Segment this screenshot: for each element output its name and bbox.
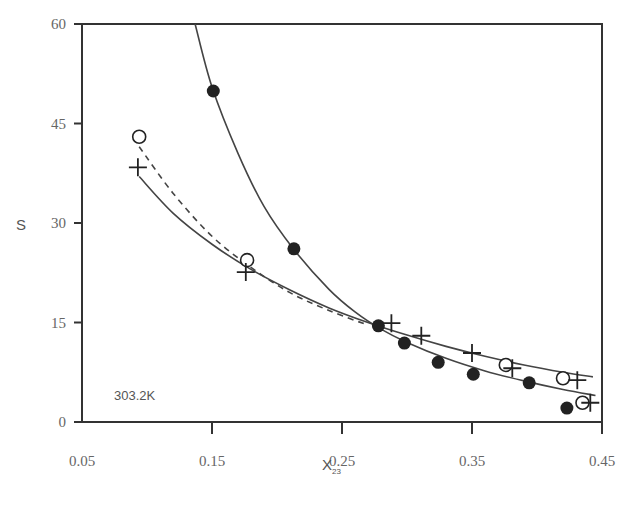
- filled-circle-marker: [523, 376, 536, 389]
- chart: 0153045600.050.150.250.350.45 303.2K S X…: [0, 0, 620, 512]
- x-tick-label: 0.05: [69, 453, 95, 469]
- plus-marker: [412, 327, 430, 345]
- plot-frame: [82, 24, 602, 422]
- open-fit-curve: [139, 147, 368, 325]
- filled-circle-marker: [398, 337, 411, 350]
- x-tick-label: 0.35: [459, 453, 485, 469]
- x-axis-label-subscript: 23: [332, 467, 341, 476]
- filled-circle-marker: [287, 242, 300, 255]
- plus-marker: [382, 314, 400, 332]
- plus-fit-curve: [139, 177, 593, 377]
- plus-marker: [129, 158, 147, 176]
- y-axis-label: S: [16, 216, 26, 233]
- x-tick-label: 0.15: [199, 453, 225, 469]
- y-tick-label: 60: [51, 16, 66, 32]
- open-circle-marker: [557, 372, 570, 385]
- filled-circle-marker: [560, 402, 573, 415]
- y-tick-label: 0: [59, 414, 67, 430]
- y-tick-label: 15: [51, 315, 66, 331]
- filled-circle-marker: [372, 319, 385, 332]
- fit-curves: [139, 24, 595, 395]
- x-axis-label-main: X: [322, 456, 332, 473]
- data-points: [129, 84, 599, 414]
- x-tick-label: 0.45: [589, 453, 615, 469]
- filled-circle-marker: [207, 84, 220, 97]
- plus-marker: [237, 263, 255, 281]
- plus-marker: [463, 344, 481, 362]
- temperature-annotation: 303.2K: [114, 388, 156, 403]
- y-tick-label: 45: [51, 116, 66, 132]
- filled-fit-curve: [195, 24, 595, 395]
- open-circle-marker: [241, 254, 254, 267]
- y-tick-label: 30: [51, 215, 66, 231]
- open-circle-marker: [499, 358, 512, 371]
- filled-circle-marker: [467, 368, 480, 381]
- filled-circle-marker: [432, 356, 445, 369]
- open-circle-marker: [133, 130, 146, 143]
